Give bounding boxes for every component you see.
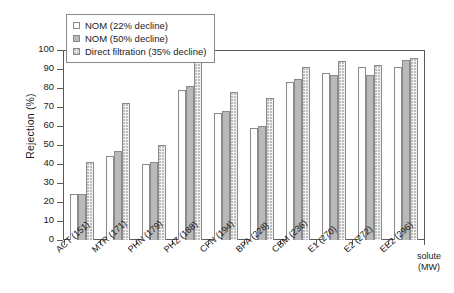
y-tick-label: 30 <box>43 176 54 187</box>
legend-item: NOM (22% decline) <box>73 19 206 32</box>
bar <box>338 61 346 240</box>
bar-groups <box>64 50 424 240</box>
bar <box>294 79 302 241</box>
bar-group <box>388 50 424 240</box>
y-tick-label: 10 <box>43 214 54 225</box>
y-tick-label: 100 <box>38 43 54 54</box>
bar <box>230 92 238 240</box>
bar <box>178 90 186 240</box>
x-axis-title-line1: solute <box>417 251 441 262</box>
bar-group <box>172 50 208 240</box>
bar <box>250 128 258 240</box>
legend-label: NOM (50% decline) <box>85 33 168 44</box>
bar <box>394 67 402 240</box>
bar <box>214 113 222 240</box>
bar-group <box>208 50 244 240</box>
legend-label: Direct filtration (35% decline) <box>85 46 206 57</box>
bar <box>286 82 294 240</box>
y-tick-label: 70 <box>43 100 54 111</box>
legend-swatch <box>73 48 80 55</box>
bar-group <box>136 50 172 240</box>
y-tick-label: 90 <box>43 62 54 73</box>
y-tick-label: 60 <box>43 119 54 130</box>
bar-group <box>280 50 316 240</box>
bar-group <box>244 50 280 240</box>
bar-group <box>352 50 388 240</box>
y-tick-label: 20 <box>43 195 54 206</box>
legend-label: NOM (22% decline) <box>85 20 168 31</box>
bar-group <box>100 50 136 240</box>
bar <box>186 86 194 240</box>
bar <box>330 75 338 240</box>
legend-swatch <box>73 35 80 42</box>
y-tick-label: 80 <box>43 81 54 92</box>
y-tick-label: 40 <box>43 157 54 168</box>
y-tick-label: 50 <box>43 138 54 149</box>
bar <box>366 75 374 240</box>
y-axis-title: Rejection (%) <box>24 66 36 186</box>
bar <box>322 73 330 240</box>
legend-item: Direct filtration (35% decline) <box>73 45 206 58</box>
bar <box>194 60 202 241</box>
bar <box>374 65 382 240</box>
y-tick-label: 0 <box>49 233 54 244</box>
x-tick-mark <box>424 240 425 245</box>
bar-group <box>64 50 100 240</box>
bar <box>358 67 366 240</box>
legend-swatch <box>73 22 80 29</box>
bar <box>402 60 410 241</box>
bar <box>410 58 418 240</box>
x-axis-title: solute (MW) <box>417 251 441 273</box>
x-axis-title-line2: (MW) <box>417 262 441 273</box>
bar-chart: Rejection (%) 1009080706050403020100 ACT… <box>0 0 454 293</box>
bar <box>302 67 310 240</box>
bar-group <box>316 50 352 240</box>
legend-item: NOM (50% decline) <box>73 32 206 45</box>
bar <box>266 98 274 241</box>
chart-legend: NOM (22% decline)NOM (50% decline)Direct… <box>66 14 215 63</box>
